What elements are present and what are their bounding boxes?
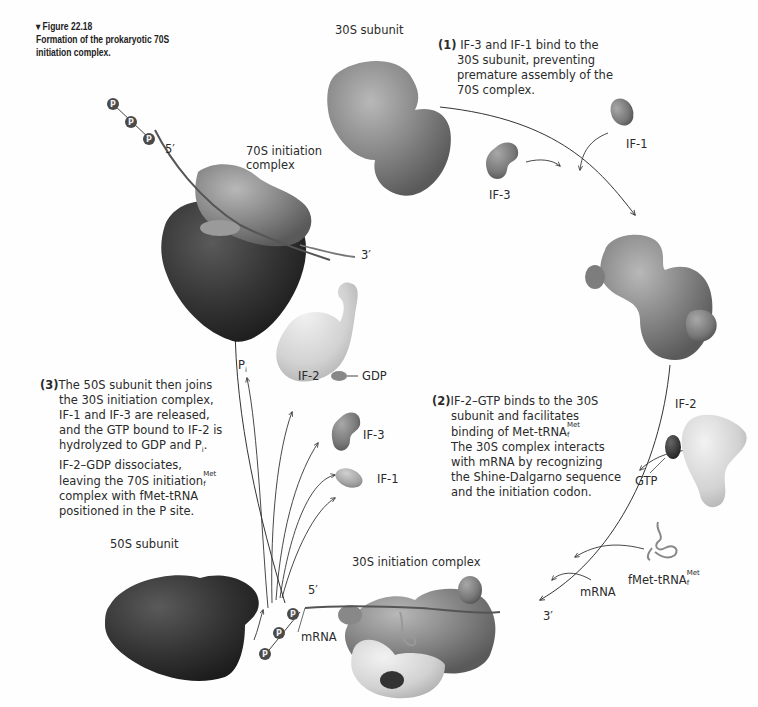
30s-subunit-with-factors	[585, 235, 717, 360]
label-30s-subunit: 30S subunit	[335, 23, 403, 37]
label-3prime-bottom: 3′	[543, 609, 553, 623]
label-5prime-bottom: 5′	[308, 583, 318, 597]
figure-title: Formation of the prokaryotic 70S initiat…	[36, 34, 169, 58]
label-50s-subunit: 50S subunit	[110, 537, 178, 551]
phosphate-label: P	[290, 608, 296, 622]
label-if1-top: IF-1	[626, 137, 647, 151]
if3-protein-left	[332, 412, 360, 450]
label-5prime-top: 5′	[165, 142, 175, 156]
step-2-text: (2)IF-2–GTP binds to the 30S subunit and…	[432, 394, 621, 500]
label-fmet-trna: fMet-tRNAMetf	[628, 572, 699, 587]
step-1-text: (1) IF-3 and IF-1 bind to the 30S subuni…	[438, 38, 613, 98]
figure-number: ▾ Figure 22.18	[36, 20, 198, 33]
50s-subunit	[105, 575, 259, 681]
phosphate-label: P	[110, 98, 116, 112]
label-mrna-bottom: mRNA	[301, 630, 337, 644]
if1-protein-top	[606, 95, 638, 130]
label-mrna-right: mRNA	[580, 585, 616, 599]
label-if2-right: IF-2	[675, 397, 696, 411]
step-3-text: (3)The 50S subunit then joins the 30S in…	[40, 378, 222, 519]
30s-subunit-top	[327, 61, 451, 196]
label-gtp: GTP	[635, 474, 657, 488]
label-pi: Pi	[238, 358, 247, 377]
label-if2-left: IF-2	[298, 369, 319, 383]
label-if3-left: IF-3	[363, 428, 384, 442]
phosphate-label: P	[146, 133, 152, 147]
label-gdp: GDP	[362, 369, 387, 383]
if1-protein-left	[333, 465, 365, 491]
figure-caption: ▾ Figure 22.18 Formation of the prokaryo…	[36, 20, 198, 59]
label-30s-initiation-complex: 30S initiation complex	[352, 555, 480, 569]
phosphate-label: P	[128, 116, 134, 130]
phosphate-label: P	[262, 648, 268, 662]
label-if3-top: IF-3	[489, 188, 510, 202]
if3-protein-top	[486, 142, 518, 179]
label-3prime-top: 3′	[361, 248, 371, 262]
label-70s-complex-2: complex	[246, 158, 295, 172]
if2-gtp-protein	[650, 415, 747, 508]
label-if1-left: IF-1	[377, 472, 398, 486]
fmet-trna	[648, 522, 677, 560]
label-70s-complex-1: 70S initiation	[246, 144, 322, 158]
phosphate-label: P	[276, 627, 282, 641]
